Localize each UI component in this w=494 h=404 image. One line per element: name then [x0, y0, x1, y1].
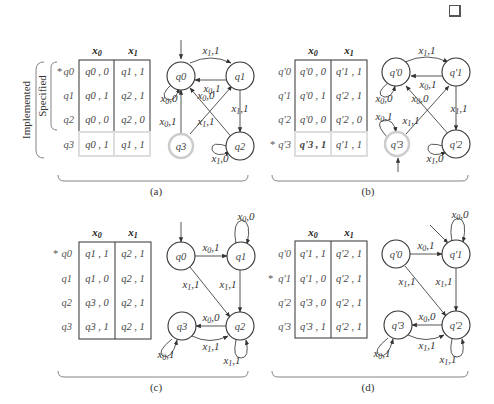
row-label: q'1 — [278, 90, 291, 101]
svg-text:x0,1: x0,1 — [416, 239, 434, 253]
table-cell: q0 , 0 — [85, 114, 109, 125]
table-cell: q1 , 1 — [121, 139, 145, 150]
label-specified: Specified — [36, 75, 48, 117]
table-cell: q'3 , 0 — [300, 297, 327, 308]
row-label: q1 — [62, 273, 73, 284]
row-label: q'2 — [278, 297, 291, 308]
caption-a: (a) — [150, 185, 163, 198]
svg-text:x1,1: x1,1 — [434, 275, 452, 289]
svg-text:x0,0: x0,0 — [374, 92, 393, 106]
row-label: q3 — [64, 139, 75, 150]
svg-text:x1,1: x1,1 — [438, 353, 456, 367]
brace-b — [272, 175, 468, 181]
svg-text:x1,1: x1,1 — [201, 44, 219, 58]
svg-text:x1,1: x1,1 — [230, 102, 248, 116]
brace-a — [58, 175, 248, 181]
svg-text:x1: x1 — [343, 226, 354, 240]
svg-text:x0,0: x0,0 — [417, 310, 436, 324]
svg-text:x0: x0 — [307, 226, 318, 240]
row-label: q'2 — [278, 114, 291, 125]
panel-b: x0 x1 q'0 q'0 , 0 q'1 , 1 q'1 q'0 , 1 q'… — [270, 44, 470, 198]
svg-text:q'0: q'0 — [390, 67, 403, 78]
svg-text:x1: x1 — [127, 226, 138, 240]
panel-c: x0 x1 * q0 q1 , 1 q2 , 1 q1 q1 , 0 q2 , … — [53, 210, 255, 394]
col-header-x1: x1 — [127, 44, 138, 58]
table-cell: q'0 , 1 — [300, 90, 326, 101]
svg-text:q1: q1 — [236, 251, 247, 262]
table-cell: q2 , 1 — [121, 321, 145, 332]
table-cell: q'1 , 1 — [336, 66, 362, 77]
svg-text:x0,1: x0,1 — [374, 110, 392, 124]
row-label: q'3 — [278, 321, 291, 332]
svg-text:x1,1: x1,1 — [196, 115, 214, 129]
panel-d: x0 x1 q'0 q'1 , 1 q'2 , 1 * q'1 q'1 , 0 … — [268, 208, 470, 394]
label-implemented: Implemented — [20, 80, 32, 139]
svg-text:x0,0: x0,0 — [159, 92, 178, 106]
table-cell: q3 , 0 — [85, 297, 109, 308]
table-cell: q'2 , 1 — [336, 273, 362, 284]
caption-c: (c) — [150, 381, 163, 394]
svg-text:q0: q0 — [176, 251, 187, 262]
svg-text:x0: x0 — [307, 44, 318, 58]
svg-text:x1,1: x1,1 — [401, 114, 419, 128]
table-cell: q2 , 1 — [121, 297, 145, 308]
col-header-x0: x0 — [91, 44, 102, 58]
svg-text:x1,1: x1,1 — [222, 354, 240, 368]
row-label: q0 — [62, 248, 73, 259]
table-cell: q0 , 1 — [85, 139, 109, 150]
svg-text:x0: x0 — [91, 226, 102, 240]
svg-text:x1,1: x1,1 — [218, 278, 236, 292]
svg-text:*: * — [268, 273, 273, 284]
svg-text:q'2: q'2 — [450, 320, 463, 331]
row-label: q2 — [62, 297, 73, 308]
table-cell: q'1 , 0 — [300, 273, 327, 284]
svg-text:q1: q1 — [235, 71, 246, 82]
caption-b: (b) — [362, 185, 375, 198]
svg-text:q'3: q'3 — [392, 320, 405, 331]
table-cell: q1 , 1 — [85, 248, 109, 259]
state-diagram-b: x1,1 x0,1 x0,0 x0,0 x1,1 x0,1 x1,1 x1,0 … — [374, 44, 470, 172]
table-cell: q2 , 1 — [121, 248, 145, 259]
table-cell: q'0 , 0 — [300, 66, 327, 77]
table-cell: q'2 , 1 — [336, 90, 362, 101]
svg-text:x1: x1 — [343, 44, 354, 58]
svg-text:x0,0: x0,0 — [410, 92, 429, 106]
svg-text:q'1: q'1 — [450, 67, 463, 78]
state-table-a: x0 x1 * q0 q0 , 0 q1 , 1 q1 q0 , 1 q2 , … — [57, 44, 150, 156]
svg-text:x0,1: x0,1 — [156, 348, 174, 362]
svg-text:q2: q2 — [235, 141, 246, 152]
row-label: q2 — [64, 114, 75, 125]
svg-text:q2: q2 — [235, 321, 246, 332]
table-cell: q2 , 0 — [121, 114, 145, 125]
table-cell: q'1 , 1 — [300, 248, 326, 259]
table-cell: q0 , 0 — [85, 66, 109, 77]
svg-text:q'1: q'1 — [450, 249, 463, 260]
brace-d — [272, 371, 468, 377]
svg-text:x0,0: x0,0 — [196, 89, 215, 103]
svg-text:q3: q3 — [176, 141, 187, 152]
table-cell: q1 , 0 — [85, 273, 109, 284]
table-cell: q2 , 1 — [121, 273, 145, 284]
table-cell: q'2 , 0 — [336, 114, 363, 125]
state-diagram-c: x0,1 x0,0 x1,1 x1,1 x0,0 x1,1 x0,1 x1,1 … — [156, 210, 255, 368]
svg-text:x0,0: x0,0 — [201, 311, 220, 325]
svg-text:q'2: q'2 — [450, 139, 463, 150]
svg-text:x1,1: x1,1 — [417, 339, 435, 353]
row-label: q'0 — [278, 66, 291, 77]
svg-text:q'3: q'3 — [391, 139, 404, 150]
panel-a: x0 x1 * q0 q0 , 0 q1 , 1 q1 q0 , 1 q2 , … — [57, 40, 254, 198]
svg-text:x1,1: x1,1 — [181, 278, 199, 292]
svg-text:x0,1: x0,1 — [372, 347, 390, 361]
table-cell: q'1 , 1 — [336, 139, 362, 150]
svg-text:q0: q0 — [176, 71, 187, 82]
table-cell: q1 , 1 — [121, 66, 145, 77]
svg-text:*: * — [53, 248, 58, 259]
table-cell: q'3 , 1 — [300, 139, 327, 150]
svg-text:x1,1: x1,1 — [397, 275, 415, 289]
table-cell: q3 , 1 — [85, 321, 109, 332]
state-table-d: x0 x1 q'0 q'1 , 1 q'2 , 1 * q'1 q'1 , 0 … — [268, 226, 367, 338]
row-label: q'1 — [278, 273, 291, 284]
svg-text:x1,1: x1,1 — [201, 340, 219, 354]
figure-canvas: Implemented Specified x0 x1 * q0 q0 , 0 … — [0, 0, 494, 404]
svg-text:x1,1: x1,1 — [449, 102, 467, 116]
